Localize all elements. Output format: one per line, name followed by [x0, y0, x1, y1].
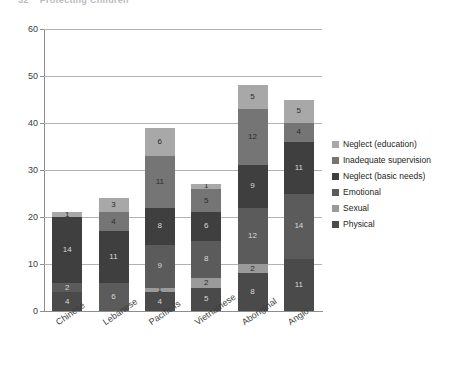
legend-item[interactable]: Physical: [332, 216, 454, 232]
bar-group[interactable]: 51291228: [238, 85, 268, 311]
bar-segment-value: 12: [248, 133, 257, 141]
bar-segment-value: 14: [294, 222, 303, 230]
legend-item[interactable]: Emotional: [332, 184, 454, 200]
bar-segment-value: 4: [158, 298, 162, 306]
bar-segment-value: 8: [204, 255, 208, 263]
y-axis-tick: [40, 29, 44, 30]
bar-segment[interactable]: 6: [191, 212, 221, 240]
bar-segment[interactable]: 12: [238, 208, 268, 264]
legend-swatch-icon: [332, 173, 339, 180]
gridline: [44, 123, 322, 124]
gridline: [44, 29, 322, 30]
bar-segment[interactable]: 9: [145, 245, 175, 287]
bar-segment-value: 2: [250, 265, 254, 273]
y-axis-tick: [40, 311, 44, 312]
bar-segment[interactable]: 4: [284, 123, 314, 142]
bar-segment-value: 5: [204, 197, 208, 205]
bar-segment-value: 6: [111, 293, 115, 301]
bar-segment[interactable]: 14: [52, 217, 82, 283]
bar-segment[interactable]: 3: [99, 198, 129, 212]
bar-group[interactable]: 34116: [99, 198, 129, 311]
bar-segment-value: 4: [111, 218, 115, 226]
bar-segment[interactable]: 2: [52, 283, 82, 292]
legend-swatch-icon: [332, 221, 339, 228]
bar-segment[interactable]: 6: [145, 128, 175, 156]
bar-segment[interactable]: 14: [284, 194, 314, 260]
bar-segment[interactable]: 11: [99, 231, 129, 283]
y-tick-label: 50: [28, 71, 38, 81]
y-axis-tick: [40, 264, 44, 265]
bar-segment[interactable]: 12: [238, 109, 268, 165]
y-axis-tick: [40, 170, 44, 171]
legend-swatch-icon: [332, 189, 339, 196]
legend-item[interactable]: Inadequate supervision: [332, 152, 454, 168]
bar-group[interactable]: 6118914: [145, 128, 175, 311]
bar-segment-value: 4: [65, 298, 69, 306]
bar-segment[interactable]: 9: [238, 165, 268, 207]
bar-segment-value: 3: [111, 201, 115, 209]
bar-segment[interactable]: 5: [284, 100, 314, 124]
legend-swatch-icon: [332, 205, 339, 212]
bar-segment[interactable]: 11: [145, 156, 175, 208]
bar-segment[interactable]: 11: [284, 259, 314, 311]
y-tick-label: 0: [33, 306, 38, 316]
bar-segment[interactable]: 5: [238, 85, 268, 109]
bar-segment[interactable]: 8: [191, 241, 221, 279]
y-axis-tick: [40, 76, 44, 77]
legend-label: Emotional: [343, 188, 381, 197]
bar-segment[interactable]: 11: [284, 142, 314, 194]
bar-group[interactable]: 54111411: [284, 100, 314, 311]
bar-segment-value: 6: [204, 222, 208, 230]
bar-segment[interactable]: 2: [191, 278, 221, 287]
legend-label: Inadequate supervision: [343, 156, 431, 165]
legend-swatch-icon: [332, 157, 339, 164]
bar-segment-value: 9: [250, 182, 254, 190]
bar-group[interactable]: 156825: [191, 184, 221, 311]
bar-segment-value: 11: [295, 164, 303, 172]
legend-item[interactable]: Neglect (basic needs): [332, 168, 454, 184]
legend-swatch-icon: [332, 141, 339, 148]
bar-segment-value: 5: [250, 93, 254, 101]
x-axis-line: [44, 311, 323, 312]
plot-area: 114243411661189141568255129122854111411: [44, 29, 322, 311]
gridline: [44, 264, 322, 265]
bar-segment-value: 9: [158, 262, 162, 270]
bar-segment[interactable]: 5: [191, 189, 221, 213]
chart-legend: Neglect (education)Inadequate supervisio…: [332, 136, 454, 232]
gridline: [44, 170, 322, 171]
bar-group[interactable]: 11424: [52, 212, 82, 311]
bar-segment-value: 8: [250, 288, 254, 296]
bar-segment-value: 11: [156, 178, 164, 186]
y-axis-tick: [40, 123, 44, 124]
bar-segment-value: 12: [248, 232, 257, 240]
legend-item[interactable]: Sexual: [332, 200, 454, 216]
bar-segment[interactable]: 2: [238, 264, 268, 273]
bar-segment-value: 11: [295, 281, 303, 289]
y-tick-label: 30: [28, 165, 38, 175]
legend-label: Neglect (basic needs): [343, 172, 425, 181]
legend-item[interactable]: Neglect (education): [332, 136, 454, 152]
legend-label: Sexual: [343, 204, 369, 213]
bar-segment-value: 2: [204, 279, 208, 287]
y-axis-labels: 0102030405060: [0, 0, 38, 377]
bar-segment[interactable]: 8: [145, 208, 175, 246]
legend-label: Physical: [343, 220, 375, 229]
y-tick-label: 10: [28, 259, 38, 269]
bar-segment-value: 4: [297, 128, 301, 136]
bar-segment-value: 5: [297, 107, 301, 115]
bar-segment-value: 11: [109, 253, 117, 261]
legend-label: Neglect (education): [343, 140, 417, 149]
bar-segment-value: 6: [158, 138, 162, 146]
bar-segment-value: 5: [204, 295, 208, 303]
chart-figure: 0102030405060 11424341166118914156825512…: [0, 0, 455, 377]
gridline: [44, 76, 322, 77]
y-tick-label: 60: [28, 24, 38, 34]
y-axis-tick: [40, 217, 44, 218]
gridline: [44, 217, 322, 218]
y-tick-label: 40: [28, 118, 38, 128]
bar-segment-value: 8: [158, 222, 162, 230]
y-tick-label: 20: [28, 212, 38, 222]
bar-segment-value: 14: [63, 246, 72, 254]
bar-segment[interactable]: 4: [99, 212, 129, 231]
bar-segment-value: 2: [65, 284, 69, 292]
